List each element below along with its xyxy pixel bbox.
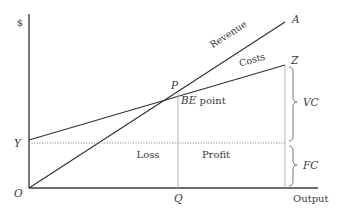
breakeven-chart: $ Output O Y Q Revenue Costs A Z P BE po… [0,0,342,213]
x-axis-label: Output [293,193,329,204]
y-axis-label: $ [17,17,23,28]
quantity-tick-label: Q [174,192,183,205]
breakeven-point-label: P [170,79,179,91]
revenue-endpoint-label: A [291,13,300,25]
origin-label: O [14,187,23,199]
breakeven-caption-rest: point [196,95,225,106]
chart-background [0,0,342,213]
profit-region-label: Profit [202,149,230,160]
fixed-cost-label: FC [302,159,318,171]
loss-region-label: Loss [137,149,160,160]
breakeven-chart-svg: $ Output O Y Q Revenue Costs A Z P BE po… [0,0,342,213]
fixed-cost-intercept-label: Y [14,137,22,149]
breakeven-point-caption: BE point [180,94,226,106]
variable-cost-label: VC [303,96,319,108]
costs-endpoint-label: Z [290,54,299,66]
breakeven-caption-italic: BE [180,94,197,106]
